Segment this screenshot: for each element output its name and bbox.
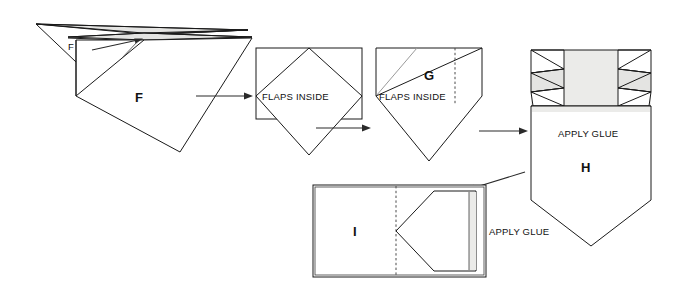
note-flaps-inside-2: FLAPS INSIDE — [379, 91, 446, 102]
figure-f-body — [76, 38, 252, 152]
note-flaps-inside-1: FLAPS INSIDE — [262, 91, 329, 102]
callout-label-f: F — [68, 41, 74, 52]
figure-i-glue-strip — [469, 192, 476, 270]
figure-h-pouch-body — [531, 106, 651, 246]
step-label-h: H — [581, 160, 591, 175]
diagram-canvas — [0, 0, 676, 284]
figure-i — [313, 185, 486, 277]
arrow-g-to-h — [479, 127, 528, 134]
figure-h — [531, 50, 651, 246]
figure-g — [376, 48, 482, 161]
note-apply-glue-i: APPLY GLUE — [489, 226, 549, 237]
step-label-f: F — [135, 90, 143, 105]
step-label-i: I — [353, 224, 357, 239]
step-label-g: G — [424, 68, 434, 83]
figure-g-body — [376, 48, 482, 161]
note-apply-glue-h: APPLY GLUE — [558, 128, 618, 139]
figure-h-right-flaps — [618, 50, 651, 106]
figure-h-glue-band — [532, 106, 650, 112]
figure-h-left-flaps — [531, 50, 564, 106]
instruction-diagram: F F FLAPS INSIDE G FLAPS INSIDE APPLY GL… — [0, 0, 676, 284]
